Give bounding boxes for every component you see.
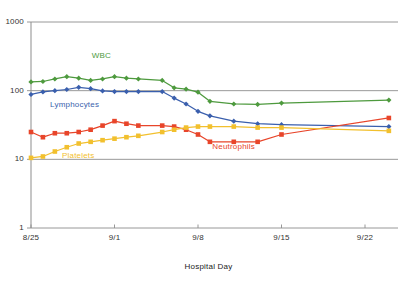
x-tick-label-8-25: 8/25	[11, 233, 51, 242]
x-tick-label-9-22: 9/22	[345, 233, 385, 242]
series-label-lymphocytes: Lymphocytes	[50, 100, 99, 109]
x-axis-title: Hospital Day	[0, 262, 417, 271]
y-tick-label-1000: 1000	[0, 17, 24, 26]
y-tick-label-100: 100	[0, 86, 24, 95]
series-label-wbc: WBC	[92, 51, 111, 60]
x-tick-label-9-1: 9/1	[95, 233, 135, 242]
series-label-platelets: Platelets	[62, 151, 94, 160]
chart-container: 1000100101 8/259/19/89/159/22 WBCLymphoc…	[0, 0, 417, 283]
y-tick-label-10: 10	[0, 154, 24, 163]
series-label-neutrophils: Neutrophils	[212, 142, 255, 151]
data-series-layer	[28, 74, 391, 160]
x-tick-label-9-15: 9/15	[262, 233, 302, 242]
x-tick-label-9-8: 9/8	[178, 233, 218, 242]
y-tick-label-1: 1	[0, 223, 24, 232]
